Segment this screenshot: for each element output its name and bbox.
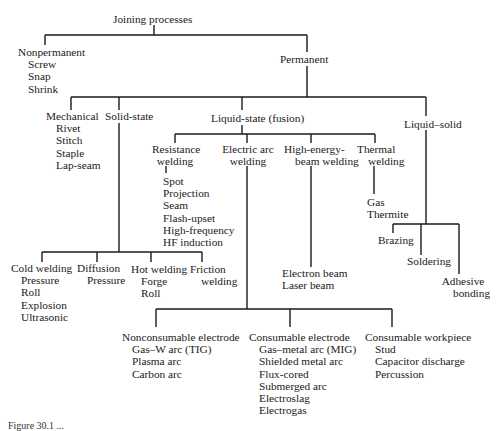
node-label: Electric arc — [220, 143, 276, 155]
node-nonconsumable-electrode: Nonconsumable electrode Gas–W arc (TIG) … — [122, 331, 240, 380]
node-label: Consumable workpiece — [365, 331, 471, 343]
node-item: Ultrasonic — [11, 311, 72, 323]
node-label: welding — [152, 155, 198, 167]
node-friction-welding: Friction welding — [190, 263, 237, 287]
node-label: Friction — [190, 263, 237, 275]
node-item: Plasma arc — [122, 355, 240, 367]
node-label: Brazing — [378, 234, 414, 246]
node-item: Electrogas — [249, 404, 356, 416]
node-soldering: Soldering — [407, 255, 451, 267]
node-item: Rivet — [46, 122, 101, 134]
node-item: Shrink — [18, 83, 85, 95]
node-label: Permanent — [280, 53, 328, 65]
node-solid-state: Solid-state — [105, 110, 153, 122]
node-label: Consumable electrode — [249, 331, 356, 343]
node-item: Flash-upset — [163, 212, 235, 224]
node-mechanical: Mechanical Rivet Stitch Staple Lap-seam — [46, 110, 101, 171]
node-item: Gas — [367, 196, 408, 208]
node-consumable-electrode: Consumable electrode Gas–metal arc (MIG)… — [249, 331, 356, 416]
node-high-energy-beam-welding: High-energy- beam welding — [284, 143, 359, 167]
node-label: Cold welding — [11, 262, 72, 274]
node-item: Spot — [163, 175, 235, 187]
node-item: Stud — [365, 343, 471, 355]
node-label: Diffusion — [77, 262, 125, 274]
node-item: Submerged arc — [249, 380, 356, 392]
node-item: Pressure — [77, 274, 125, 286]
node-item: Electroslag — [249, 392, 356, 404]
node-label: bonding — [441, 287, 485, 299]
node-permanent: Permanent — [280, 53, 328, 65]
node-joining-processes: Joining processes — [113, 13, 192, 25]
node-item: Flux-cored — [249, 368, 356, 380]
node-label: Nonpermanent — [18, 46, 85, 58]
node-item: HF induction — [163, 236, 235, 248]
node-cold-welding: Cold welding Pressure Roll Explosion Ult… — [11, 262, 72, 323]
node-resistance-items: Spot Projection Seam Flash-upset High-fr… — [163, 175, 235, 248]
node-item: Gas–W arc (TIG) — [122, 343, 240, 355]
node-label: Solid-state — [105, 110, 153, 122]
node-adhesive-bonding: Adhesive bonding — [441, 275, 485, 299]
node-label: Resistance — [152, 143, 198, 155]
node-label: Liquid–solid — [404, 118, 462, 130]
node-item: Pressure — [11, 274, 72, 286]
node-label: Mechanical — [46, 110, 101, 122]
node-label: welding — [190, 275, 237, 287]
node-item: Capacitor discharge — [365, 355, 471, 367]
node-label: Hot welding — [131, 263, 187, 275]
node-label: Adhesive — [441, 275, 485, 287]
node-consumable-workpiece: Consumable workpiece Stud Capacitor disc… — [365, 331, 471, 380]
node-brazing: Brazing — [378, 234, 414, 246]
node-item: Thermite — [367, 208, 408, 220]
node-item: Gas–metal arc (MIG) — [249, 343, 356, 355]
node-diffusion: Diffusion Pressure — [77, 262, 125, 286]
node-item: Electron beam — [282, 267, 348, 279]
node-label: beam welding — [284, 155, 359, 167]
node-item: Staple — [46, 147, 101, 159]
node-label: Thermal — [357, 143, 404, 155]
node-item: Projection — [163, 187, 235, 199]
node-thermal-items: Gas Thermite — [367, 196, 408, 220]
node-item: Screw — [18, 58, 85, 70]
node-liquid-solid: Liquid–solid — [404, 118, 462, 130]
node-item: Roll — [131, 287, 187, 299]
figure-caption: Figure 30.1 ... — [8, 420, 64, 431]
node-item: Seam — [163, 199, 235, 211]
node-resistance-welding: Resistance welding — [152, 143, 198, 167]
node-item: Laser beam — [282, 279, 348, 291]
node-item: Forge — [131, 275, 187, 287]
node-item: High-frequency — [163, 224, 235, 236]
node-liquid-state: Liquid-state (fusion) — [211, 112, 304, 124]
node-label: Soldering — [407, 255, 451, 267]
node-item: Lap-seam — [46, 159, 101, 171]
node-high-energy-items: Electron beam Laser beam — [282, 267, 348, 291]
node-hot-welding: Hot welding Forge Roll — [131, 263, 187, 300]
node-label: welding — [220, 155, 276, 167]
node-label: Nonconsumable electrode — [122, 331, 240, 343]
node-electric-arc-welding: Electric arc welding — [220, 143, 276, 167]
node-item: Roll — [11, 286, 72, 298]
node-nonpermanent: Nonpermanent Screw Snap Shrink — [18, 46, 85, 95]
node-item: Explosion — [11, 299, 72, 311]
node-label: High-energy- — [284, 143, 359, 155]
node-item: Percussion — [365, 368, 471, 380]
node-label: welding — [357, 155, 404, 167]
node-label: Joining processes — [113, 13, 192, 25]
node-item: Stitch — [46, 134, 101, 146]
node-item: Snap — [18, 70, 85, 82]
node-item: Carbon arc — [122, 368, 240, 380]
node-thermal-welding: Thermal welding — [357, 143, 404, 167]
node-item: Shielded metal arc — [249, 355, 356, 367]
node-label: Liquid-state (fusion) — [211, 112, 304, 124]
